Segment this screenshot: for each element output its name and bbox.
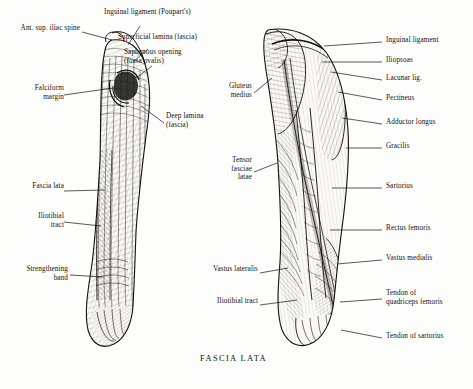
label-fascia-lata: Fascia lata bbox=[6, 182, 64, 191]
label-iliotibial-tract-left: Iliotibial tract bbox=[6, 212, 64, 229]
label-tendon-of-sartorius: Tendon of sartorius bbox=[386, 332, 473, 341]
label-deep-lamina-fascia: Deep lamina (fascia) bbox=[166, 112, 230, 129]
label-iliotibial-tract-right: Iliotibial tract bbox=[196, 297, 258, 306]
label-inguinal-ligament: Inguinal ligament bbox=[386, 36, 472, 45]
label-tendon-of-quadriceps-femoris: Tendon of quadriceps femoris bbox=[386, 289, 473, 306]
label-superficial-lamina-fascia: Superficial lamina (fascia) bbox=[118, 33, 230, 42]
label-vastus-medialis: Vastus medialis bbox=[386, 254, 472, 263]
label-vastus-lateralis: Vastus lateralis bbox=[194, 265, 258, 274]
anatomy-plate: Ant. sup. iliac spine Inguinal ligament … bbox=[0, 0, 473, 389]
label-saphenous-opening-fossa-ovalis: Saphenous opening (fossa ovalis) bbox=[124, 48, 230, 65]
label-pectineus: Pectineus bbox=[386, 94, 472, 103]
plate-caption: FASCIA LATA bbox=[200, 354, 267, 363]
label-adductor-longus: Adductor longus bbox=[386, 118, 472, 127]
label-gracilis: Gracilis bbox=[386, 142, 472, 151]
label-lacunar-lig: Lacunar lig. bbox=[386, 74, 472, 83]
label-gluteus-medius: Gluteus medius bbox=[204, 82, 252, 99]
label-tensor-fasciae-latae: Tensor fasciae latae bbox=[204, 156, 252, 182]
label-falciform-margin: Falciform margin bbox=[8, 84, 64, 101]
label-strengthening-band: Strengthening band bbox=[4, 265, 68, 282]
label-iliopsoas: Iliopsoas bbox=[386, 56, 472, 65]
label-rectus-femoris: Rectus femoris bbox=[386, 224, 472, 233]
label-inguinal-ligament-poupart: Inguinal ligament (Poupart's) bbox=[104, 8, 230, 17]
label-ant-sup-iliac-spine: Ant. sup. iliac spine bbox=[6, 24, 80, 33]
label-sartorius: Sartorius bbox=[386, 182, 472, 191]
